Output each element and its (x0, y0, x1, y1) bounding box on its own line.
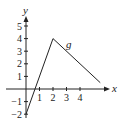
x-tick-label: 3 (64, 92, 69, 103)
x-axis-label: x (111, 82, 117, 94)
tick-labels: 1234−2−112345 (11, 21, 82, 120)
x-tick-label: 1 (37, 92, 42, 103)
x-tick-label: 2 (51, 92, 56, 103)
y-tick-label: −1 (11, 96, 22, 107)
y-axis-label: y (22, 4, 28, 16)
y-axis-arrow-icon (24, 16, 29, 22)
y-tick-label: 4 (17, 33, 22, 44)
function-graph: 1234−2−112345 g x y (0, 0, 124, 123)
x-axis-arrow-icon (104, 87, 110, 92)
y-tick-label: 3 (17, 46, 22, 57)
y-tick-label: 1 (17, 71, 22, 82)
x-tick-label: 4 (78, 92, 83, 103)
y-tick-label: 5 (17, 21, 22, 32)
y-tick-label: 2 (17, 58, 22, 69)
y-tick-label: −2 (11, 109, 22, 120)
curve-label-g: g (66, 38, 72, 50)
